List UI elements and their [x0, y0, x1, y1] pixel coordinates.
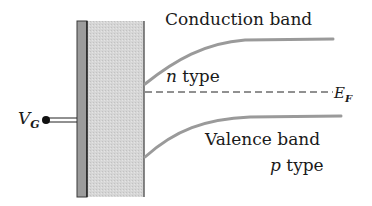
oxide-layer	[87, 21, 144, 197]
gate-terminal-dot	[42, 116, 50, 124]
n-type-letter: n	[166, 66, 177, 86]
valence-band-label: Valence band	[204, 129, 320, 149]
gate-metal-layer	[77, 21, 87, 197]
fermi-sub: F	[344, 93, 353, 104]
fermi-level-label: EF	[333, 84, 353, 104]
conduction-band-label: Conduction band	[165, 9, 312, 29]
n-type-label: n type	[166, 66, 220, 86]
p-type-label: p type	[270, 155, 324, 175]
gate-sub: G	[30, 118, 39, 131]
p-type-rest: type	[281, 155, 324, 175]
n-type-rest: type	[177, 66, 220, 86]
band-diagram: Conduction band n type EF Valence band p…	[0, 0, 372, 206]
gate-voltage-label: VG	[18, 108, 40, 131]
p-type-letter: p	[270, 155, 281, 175]
fermi-main: E	[333, 84, 345, 102]
